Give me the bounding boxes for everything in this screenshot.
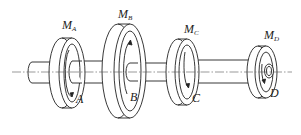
disc-b <box>102 24 146 118</box>
torque-label-a: MA <box>62 19 76 33</box>
disc-label-d: D <box>270 87 279 99</box>
torque-label-b: MB <box>118 8 132 22</box>
torque-label-c: MC <box>184 23 199 37</box>
disc-label-b: B <box>130 91 137 103</box>
disc-label-a: A <box>76 93 83 105</box>
shaft-diagram: MA MB MC MD A B C D <box>0 0 301 135</box>
torque-label-d: MD <box>264 29 279 43</box>
shaft-drawing <box>0 0 301 135</box>
disc-label-c: C <box>192 92 200 104</box>
